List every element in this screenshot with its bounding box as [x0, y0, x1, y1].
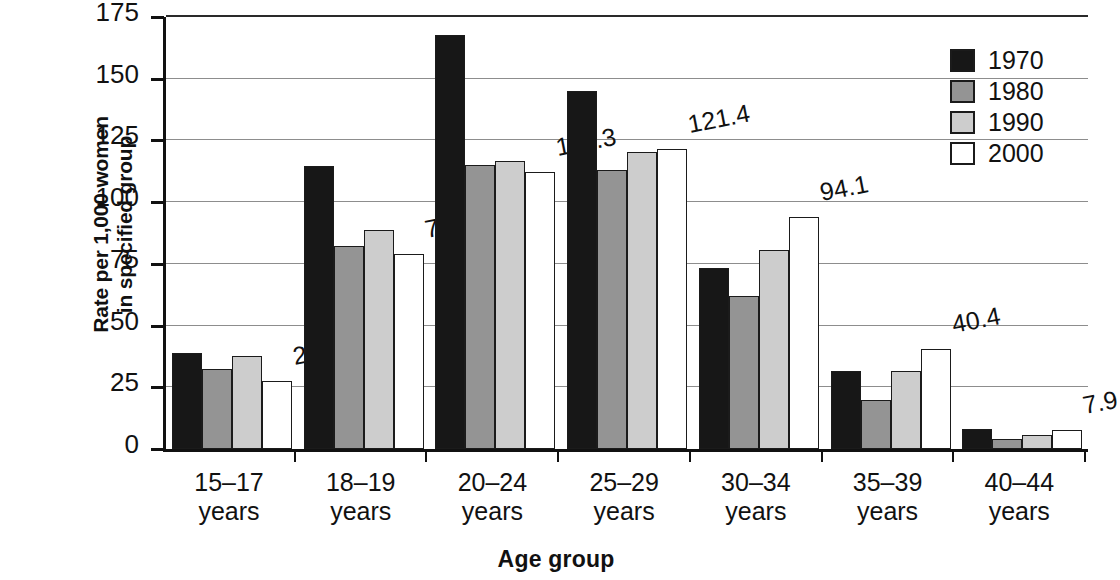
y-tick-mark — [151, 78, 164, 81]
bar-2000[interactable] — [394, 254, 424, 450]
y-tick-mark — [151, 16, 164, 19]
bar-group — [567, 17, 687, 449]
bar-group-bars — [435, 17, 555, 449]
y-tick-label: 0 — [3, 431, 139, 457]
bar-1970[interactable] — [567, 91, 597, 449]
bar-group — [699, 17, 819, 449]
y-tick-label: 100 — [3, 184, 139, 210]
x-tick-mark — [952, 449, 954, 462]
bar-2000[interactable] — [789, 217, 819, 449]
bar-group-bars — [831, 17, 951, 449]
y-tick-label: 25 — [3, 369, 139, 395]
bar-2000[interactable] — [921, 349, 951, 449]
x-category-label: 18–19 years — [286, 468, 436, 526]
legend-item-label: 1990 — [988, 110, 1044, 135]
legend-item-1970[interactable]: 1970 — [950, 47, 1044, 74]
bar-1990[interactable] — [891, 371, 921, 449]
bar-1970[interactable] — [435, 35, 465, 449]
bar-1990[interactable] — [232, 356, 262, 449]
bar-group — [831, 17, 951, 449]
y-tick-mark — [151, 201, 164, 204]
white-swatch — [950, 142, 975, 165]
legend-item-1990[interactable]: 1990 — [950, 109, 1044, 136]
x-category-label: 30–34 years — [681, 468, 831, 526]
bar-1990[interactable] — [627, 152, 657, 449]
x-tick-mark — [1084, 449, 1086, 462]
bar-1980[interactable] — [729, 296, 759, 449]
bar-1970[interactable] — [304, 166, 334, 449]
bar-2000[interactable] — [1052, 430, 1082, 450]
y-tick-label: 50 — [3, 308, 139, 334]
legend-item-label: 1970 — [988, 48, 1044, 73]
y-tick-label: 125 — [3, 122, 139, 148]
bar-1970[interactable] — [172, 353, 202, 449]
bar-1980[interactable] — [992, 439, 1022, 449]
bar-group — [172, 17, 292, 449]
bar-1970[interactable] — [699, 268, 729, 449]
bar-1990[interactable] — [759, 250, 789, 449]
bar-2000[interactable] — [262, 381, 292, 449]
legend: 1970198019902000 — [950, 47, 1044, 171]
y-tick-mark — [151, 325, 164, 328]
light-gray-swatch — [950, 111, 975, 134]
y-tick-mark — [151, 139, 164, 142]
y-tick-label: 175 — [3, 0, 139, 25]
x-category-label: 35–39 years — [813, 468, 963, 526]
bar-group-bars — [304, 17, 424, 449]
x-tick-mark — [557, 449, 559, 462]
y-tick-label: 150 — [3, 61, 139, 87]
bar-1980[interactable] — [202, 369, 232, 449]
dark-gray-swatch — [950, 80, 975, 103]
bar-2000[interactable] — [525, 172, 555, 449]
bar-group-bars — [699, 17, 819, 449]
bar-1990[interactable] — [495, 161, 525, 449]
x-category-label: 25–29 years — [549, 468, 699, 526]
bar-1990[interactable] — [364, 230, 394, 449]
x-category-label: 20–24 years — [417, 468, 567, 526]
x-tick-mark — [425, 449, 427, 462]
y-tick-label: 75 — [3, 246, 139, 272]
bar-1990[interactable] — [1022, 435, 1052, 449]
legend-item-1980[interactable]: 1980 — [950, 78, 1044, 105]
x-category-label: 40–44 years — [944, 468, 1094, 526]
x-axis-title: Age group — [0, 546, 1112, 573]
x-tick-mark — [294, 449, 296, 462]
bar-group-bars — [172, 17, 292, 449]
bar-1970[interactable] — [831, 371, 861, 449]
legend-item-label: 1980 — [988, 79, 1044, 104]
legend-item-2000[interactable]: 2000 — [950, 140, 1044, 167]
x-tick-mark — [821, 449, 823, 462]
bar-1980[interactable] — [465, 165, 495, 449]
bar-value-label: 7.9 — [1081, 384, 1120, 419]
bar-1980[interactable] — [334, 246, 364, 449]
y-tick-mark — [151, 386, 164, 389]
legend-item-label: 2000 — [988, 141, 1044, 166]
bar-1970[interactable] — [962, 429, 992, 449]
x-category-label: 15–17 years — [154, 468, 304, 526]
y-tick-mark — [151, 263, 164, 266]
bar-2000[interactable] — [657, 149, 687, 449]
bar-1980[interactable] — [861, 400, 891, 449]
bar-group — [435, 17, 555, 449]
bar-group — [304, 17, 424, 449]
bar-1980[interactable] — [597, 170, 627, 449]
bar-group-bars — [567, 17, 687, 449]
y-tick-mark — [151, 448, 164, 451]
black-swatch — [950, 49, 975, 72]
x-tick-mark — [689, 449, 691, 462]
